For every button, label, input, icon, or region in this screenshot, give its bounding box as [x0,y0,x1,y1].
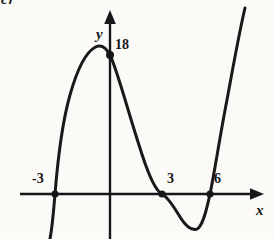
point-root-three [158,190,165,197]
point-root-negative-three [51,190,58,197]
point-y-intercept [106,51,114,59]
x-axis-label: x [256,203,264,218]
x-tick-label-three: 3 [167,172,174,186]
y-intercept-value-label: 18 [115,38,129,52]
x-tick-label-negative-three: -3 [32,172,44,186]
point-root-six [206,190,213,197]
x-axis-arrowhead-icon [250,188,264,200]
y-axis-arrowhead-icon [104,10,116,24]
cubic-curve [50,8,245,239]
cubic-graph-plot [0,0,273,239]
graph-figure: c) y x 18 -3 3 6 [0,0,273,239]
y-axis-label: y [96,27,103,42]
x-tick-label-six: 6 [214,172,221,186]
